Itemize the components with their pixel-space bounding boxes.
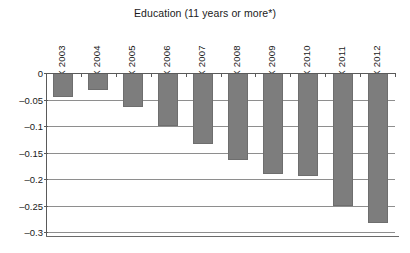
y-tick-label: –0.1 [3,121,43,132]
chart-page: Education (11 years or more*) 0–0.05–0.1… [0,0,410,253]
x-tick-mark [325,73,326,77]
y-tick-label: –0.3 [3,227,43,238]
x-tick-mark [395,73,396,77]
bar [228,73,248,160]
y-tick-label: –0.05 [3,94,43,105]
x-tick-mark [81,73,82,77]
x-tick-mark [255,73,256,77]
y-tick-mark [44,206,48,207]
y-axis-tick-labels: 0–0.05–0.1–0.15–0.2–0.25–0.3 [0,73,43,232]
bar [123,73,143,107]
bar [193,73,213,144]
x-tick-mark [186,73,187,77]
gridline [46,232,395,233]
y-tick-label: –0.2 [3,174,43,185]
bar [88,73,108,90]
bar [298,73,318,176]
x-tick-mark [151,73,152,77]
gridline [46,206,395,207]
bar [158,73,178,126]
x-tick-mark [116,73,117,77]
x-tick-mark [360,73,361,77]
bar [263,73,283,174]
y-tick-label: –0.25 [3,200,43,211]
y-tick-mark [44,126,48,127]
x-tick-mark [221,73,222,77]
plot-area [46,73,395,232]
y-tick-mark [44,179,48,180]
y-tick-mark [44,232,48,233]
y-tick-mark [44,153,48,154]
y-tick-mark [44,100,48,101]
bar [368,73,388,223]
bar [333,73,353,206]
bar [53,73,73,97]
y-tick-label: –0.15 [3,147,43,158]
y-tick-label: 0 [3,68,43,79]
x-tick-mark [46,73,47,77]
x-tick-mark [290,73,291,77]
chart-title: Education (11 years or more*) [0,7,410,19]
plot-bottom-border [46,236,399,237]
